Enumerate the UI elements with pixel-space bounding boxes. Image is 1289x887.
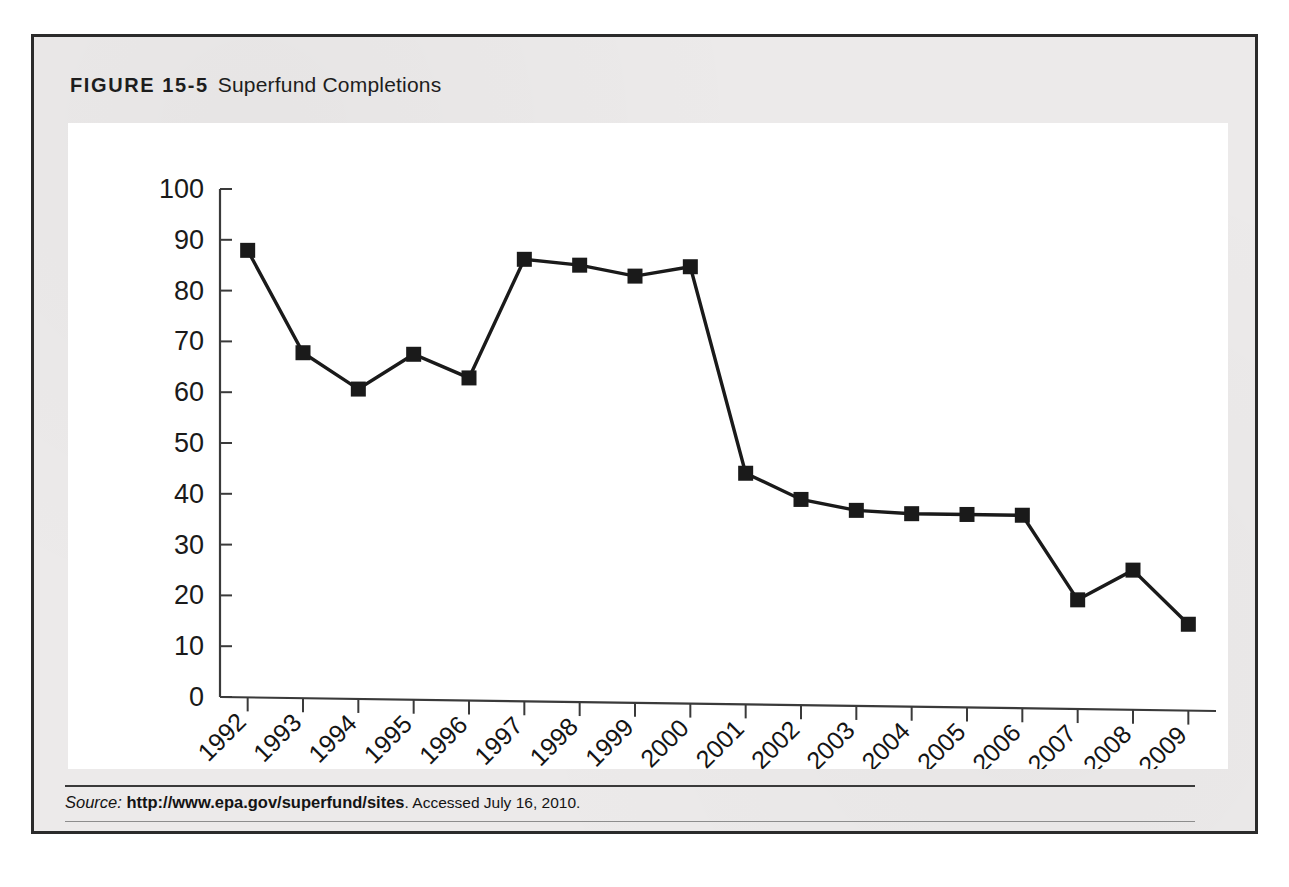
data-point-marker: [296, 345, 311, 360]
x-axis-line: [220, 697, 1216, 711]
y-axis-tick-label: 40: [174, 479, 204, 509]
x-axis-tick-label: 2009: [1133, 720, 1192, 769]
data-point-marker: [849, 503, 864, 518]
data-point-marker: [904, 506, 919, 521]
data-point-marker: [517, 252, 532, 267]
source-url: http://www.epa.gov/superfund/sites: [126, 793, 404, 811]
data-point-marker: [1181, 617, 1196, 632]
x-axis-tick-label: 1998: [524, 712, 583, 769]
y-axis-tick-label: 50: [174, 428, 204, 458]
source-divider-top: [65, 785, 1195, 787]
x-axis-tick-label: 2004: [856, 716, 915, 769]
data-point-marker: [1070, 592, 1085, 607]
data-point-marker: [738, 466, 753, 481]
x-axis-tick-label: 2007: [1022, 719, 1081, 769]
data-point-marker: [1126, 563, 1141, 578]
x-axis-tick-label: 1999: [579, 713, 638, 769]
data-point-marker: [1015, 508, 1030, 523]
y-axis-tick-label: 0: [189, 682, 204, 712]
source-accessed: . Accessed July 16, 2010.: [405, 794, 581, 811]
y-axis-tick-label: 70: [174, 326, 204, 356]
x-axis-tick-label: 2002: [745, 715, 804, 769]
x-axis-tick-label: 2006: [967, 718, 1026, 769]
figure-caption: Superfund Completions: [218, 73, 442, 96]
x-axis-tick-label: 1995: [358, 709, 417, 768]
source-prefix: Source:: [65, 793, 122, 811]
x-axis-tick-label: 1997: [469, 711, 528, 769]
y-axis-tick-label: 20: [174, 580, 204, 610]
y-axis-tick-label: 30: [174, 530, 204, 560]
data-point-marker: [960, 507, 975, 522]
page-root: FIGURE 15-5Superfund Completions 0102030…: [0, 0, 1289, 887]
y-axis-tick-label: 10: [174, 631, 204, 661]
data-point-marker: [572, 258, 587, 273]
x-axis-tick-label: 2008: [1077, 720, 1136, 769]
data-point-marker: [406, 347, 421, 362]
data-point-marker: [628, 269, 643, 284]
x-axis-tick-label: 2001: [690, 714, 749, 769]
data-point-marker: [462, 370, 477, 385]
figure-container: FIGURE 15-5Superfund Completions 0102030…: [31, 34, 1258, 834]
data-point-marker: [240, 243, 255, 258]
data-point-marker: [794, 492, 809, 507]
data-line-superfund-completions: [248, 250, 1189, 624]
line-chart: 0102030405060708090100199219931994199519…: [68, 123, 1228, 769]
x-axis-tick-label: 1996: [413, 710, 472, 769]
figure-number: FIGURE 15-5: [70, 74, 209, 96]
source-divider-bottom: [65, 821, 1195, 822]
source-note: Source: http://www.epa.gov/superfund/sit…: [65, 793, 580, 812]
x-axis-tick-label: 2003: [801, 716, 860, 769]
x-axis-tick-label: 2000: [635, 713, 694, 769]
y-axis-tick-label: 90: [174, 225, 204, 255]
y-axis-tick-label: 60: [174, 377, 204, 407]
y-axis-tick-label: 100: [159, 174, 204, 204]
x-axis-tick-label: 1993: [247, 708, 306, 767]
chart-plot-panel: 0102030405060708090100199219931994199519…: [68, 123, 1228, 769]
data-point-marker: [683, 259, 698, 274]
y-axis-tick-label: 80: [174, 276, 204, 306]
x-axis-tick-label: 1994: [303, 709, 362, 768]
x-axis-tick-label: 1992: [192, 707, 251, 766]
data-point-marker: [351, 382, 366, 397]
x-axis-tick-label: 2005: [911, 717, 970, 769]
figure-title: FIGURE 15-5Superfund Completions: [70, 73, 441, 97]
